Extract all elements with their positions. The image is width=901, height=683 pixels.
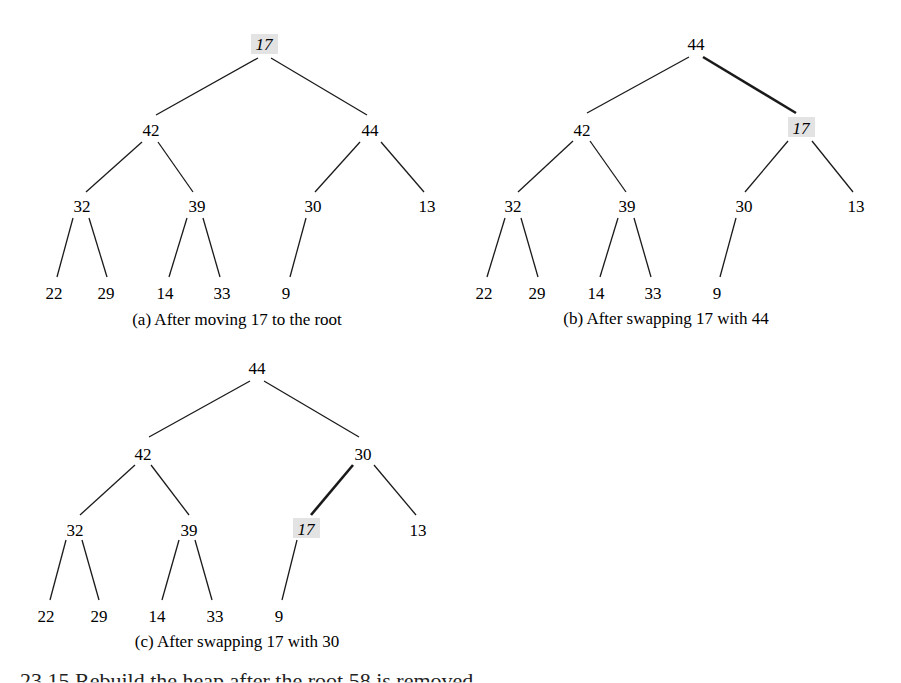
node: 13 [419,197,436,216]
node: 42 [574,121,591,140]
node: 30 [305,197,322,216]
caption-c: (c) After swapping 17 with 30 [135,632,339,651]
node: 44 [362,121,380,140]
node: 33 [207,607,224,626]
node: 13 [410,521,427,540]
node: 29 [91,607,108,626]
node: 32 [67,521,84,540]
tree-c-nodes: 44 42 30 32 39 17 13 22 29 14 33 9 (c) A… [38,359,427,651]
node: 33 [214,284,231,303]
caption-b: (b) After swapping 17 with 44 [563,309,769,328]
node: 32 [74,197,91,216]
node: 39 [619,197,636,216]
node: 39 [181,521,198,540]
node: 14 [588,284,606,303]
node: 44 [688,35,706,54]
tree-a [57,58,424,277]
node: 9 [275,607,284,626]
tree-c [50,381,416,600]
node: 14 [149,607,167,626]
node: 44 [249,359,267,378]
heap-diagram: 17 42 44 32 39 30 13 22 29 14 33 9 (a) A… [0,0,901,683]
node: 17 [793,119,812,138]
node: 33 [645,284,662,303]
node: 13 [848,197,865,216]
node: 30 [736,197,753,216]
node: 22 [46,284,63,303]
tree-a-nodes: 17 42 44 32 39 30 13 22 29 14 33 9 (a) A… [46,34,436,329]
node: 32 [505,197,522,216]
node: 22 [38,607,55,626]
node: 14 [157,284,175,303]
tree-b [487,57,853,277]
node: 17 [256,35,275,54]
node: 42 [143,121,160,140]
node: 22 [476,284,493,303]
node: 9 [282,284,291,303]
node: 29 [98,284,115,303]
caption-a: (a) After moving 17 to the root [132,310,342,329]
node: 42 [135,445,152,464]
node: 30 [355,445,372,464]
node: 39 [189,197,206,216]
node: 17 [298,520,317,539]
node: 29 [529,284,546,303]
footer-caption-partial: 23.15 Rebuild the heap after the root 58… [20,668,473,683]
node: 9 [713,284,722,303]
tree-b-nodes: 44 42 17 32 39 30 13 22 29 14 33 9 (b) A… [476,35,865,328]
